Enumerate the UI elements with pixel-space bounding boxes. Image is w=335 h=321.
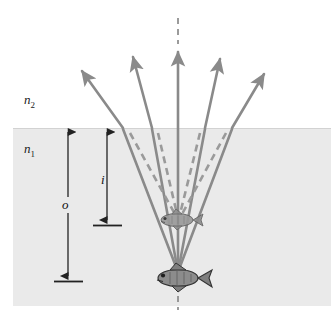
upper-medium-subscript: 2 xyxy=(31,100,36,110)
lower-medium-subscript: 1 xyxy=(31,149,36,159)
upper-medium-label: n2 xyxy=(24,92,35,110)
object-distance-label: o xyxy=(61,197,70,213)
image-distance-label: i xyxy=(100,172,106,188)
object-fish-body xyxy=(158,270,198,287)
virtual-fish-eye xyxy=(163,217,166,220)
virtual-fish-body xyxy=(161,214,193,227)
object-fish-eye xyxy=(161,273,165,277)
refraction-ray-diagram xyxy=(0,0,335,321)
figure-canvas: n2 n1 o i xyxy=(0,0,335,321)
lower-medium-label: n1 xyxy=(24,141,35,159)
air-region xyxy=(0,0,335,128)
